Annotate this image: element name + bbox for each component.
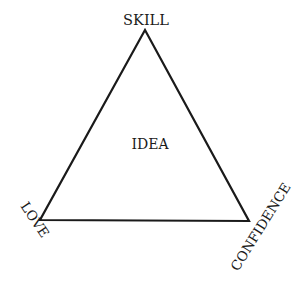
- idea-triangle-diagram: SKILL IDEA LOVE CONFIDENCE: [0, 0, 302, 288]
- triangle-shape: [40, 30, 249, 221]
- vertex-label-skill: SKILL: [123, 12, 169, 28]
- center-label-idea: IDEA: [131, 136, 169, 152]
- vertex-label-confidence: CONFIDENCE: [227, 180, 294, 274]
